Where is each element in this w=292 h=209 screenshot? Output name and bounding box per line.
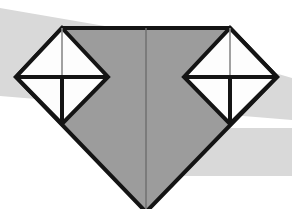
diamond-diagram-svg xyxy=(0,0,292,209)
figure-canvas xyxy=(0,0,292,209)
